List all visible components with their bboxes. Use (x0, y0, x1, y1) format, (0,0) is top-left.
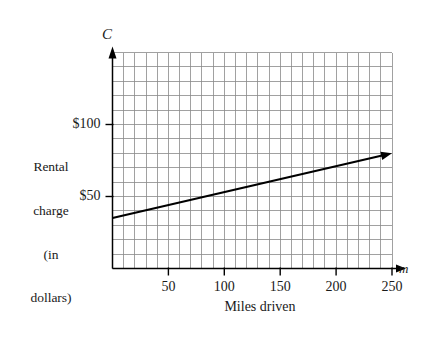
y-axis-title-line-1: Rental (14, 160, 88, 175)
y-tick-label: $50 (57, 188, 101, 204)
graph-figure: C m Rental charge (in dollars) Miles dri… (0, 0, 421, 338)
y-axis-title-line-3: (in (14, 248, 88, 263)
gridlines (113, 53, 393, 269)
y-axis-symbol: C (102, 26, 112, 42)
x-tick-label: 50 (143, 279, 193, 295)
y-axis-title-line-4: dollars) (14, 291, 88, 306)
x-tick-label: 150 (255, 279, 305, 295)
data-line (113, 152, 393, 218)
y-tick-label: $100 (57, 116, 101, 132)
axis-ticks (106, 125, 393, 276)
x-axis-symbol: m (399, 262, 408, 276)
y-axis-title: Rental charge (in dollars) (14, 131, 88, 335)
x-tick-label: 100 (199, 279, 249, 295)
x-axis-title: Miles driven (180, 299, 340, 314)
x-tick-label: 200 (311, 279, 361, 295)
y-axis-title-line-2: charge (14, 204, 88, 219)
x-tick-label: 250 (367, 279, 417, 295)
